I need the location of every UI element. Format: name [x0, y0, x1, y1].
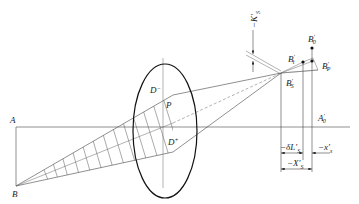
label-X-S: −X′S — [287, 158, 304, 170]
label-B-0: B′0 — [308, 34, 316, 45]
label-B: B — [12, 189, 18, 199]
label-D-minus: D− — [149, 85, 161, 95]
petzval-image-dot — [310, 59, 313, 62]
label-x-s: −x′s — [318, 142, 333, 154]
tangential-image-dot — [301, 60, 304, 63]
hatched-ray-bundle — [16, 82, 202, 186]
label-D-plus: D+ — [167, 137, 179, 147]
label-B-t: B′t — [288, 54, 296, 65]
gaussian-image-dot — [310, 46, 313, 49]
label-B-P: B′P — [322, 61, 331, 72]
lens-pupil — [133, 64, 197, 198]
optical-diagram: A B D− P D+ B′t B′0 B′P B′S A′0 −K′S −δL… — [0, 0, 359, 204]
coma-dimension — [246, 30, 281, 74]
label-A-0: A′0 — [317, 113, 326, 124]
label-delta-L: −δL′S — [280, 142, 300, 154]
label-K-S: −K′S — [249, 11, 261, 28]
label-A: A — [9, 115, 16, 125]
label-P: P — [165, 100, 172, 110]
label-B-S: B′S — [286, 78, 294, 89]
